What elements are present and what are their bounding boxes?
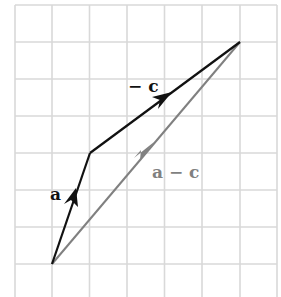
label-neg-c: − c bbox=[128, 76, 159, 96]
arrowhead-icon bbox=[134, 142, 154, 160]
label-a: a bbox=[50, 184, 61, 204]
label-a-minus-c: a − c bbox=[152, 162, 199, 182]
arrowhead-icon bbox=[64, 188, 78, 207]
vector-diagram: a − c a − c bbox=[0, 0, 281, 297]
vector-a bbox=[52, 153, 90, 264]
